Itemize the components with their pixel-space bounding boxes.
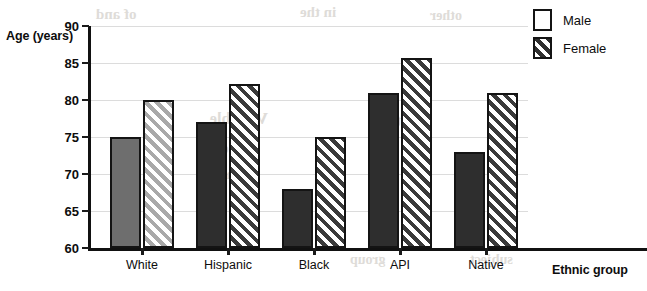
x-tick-label-white: White bbox=[126, 258, 158, 272]
bar-chart: of andin theotherVariabletheof acasegrou… bbox=[0, 0, 647, 291]
bar-male-api bbox=[368, 93, 399, 248]
y-tick-label: 80 bbox=[65, 93, 79, 108]
gridline bbox=[91, 63, 528, 64]
legend: MaleFemale bbox=[533, 6, 606, 62]
bar-male-hispanic bbox=[196, 122, 227, 248]
y-tick-mark bbox=[82, 136, 89, 138]
x-tick-label-hispanic: Hispanic bbox=[204, 258, 252, 272]
x-tick-label-black: Black bbox=[299, 258, 330, 272]
y-tick-label: 85 bbox=[65, 56, 79, 71]
y-tick-mark bbox=[82, 62, 89, 64]
y-tick-mark bbox=[82, 173, 89, 175]
legend-item-female: Female bbox=[533, 34, 606, 62]
y-tick-label: 60 bbox=[65, 241, 79, 256]
legend-label: Male bbox=[563, 13, 591, 28]
legend-item-male: Male bbox=[533, 6, 606, 34]
bar-male-black bbox=[282, 189, 313, 248]
bar-female-native bbox=[487, 93, 518, 248]
legend-label: Female bbox=[563, 41, 606, 56]
legend-swatch-female bbox=[533, 37, 552, 59]
bar-female-black bbox=[315, 137, 346, 248]
bleed-text: in the bbox=[300, 4, 336, 21]
x-tick-mark bbox=[399, 248, 402, 255]
y-tick-mark bbox=[82, 247, 89, 249]
plot-area: 60657075808590 WhiteHispanicBlackAPINati… bbox=[88, 26, 528, 248]
bleed-text: other bbox=[430, 8, 462, 24]
bar-female-white bbox=[143, 100, 174, 248]
x-tick-mark bbox=[313, 248, 316, 255]
x-axis-title: Ethnic group bbox=[552, 263, 628, 277]
y-tick-label: 65 bbox=[65, 204, 79, 219]
bar-female-hispanic bbox=[229, 84, 260, 248]
x-tick-mark bbox=[227, 248, 230, 255]
x-tick-label-native: Native bbox=[468, 258, 503, 272]
y-tick-mark bbox=[82, 25, 89, 27]
y-axis-title: Age (years) bbox=[6, 29, 73, 43]
bar-female-api bbox=[401, 58, 432, 248]
y-tick-label: 70 bbox=[65, 167, 79, 182]
x-tick-label-api: API bbox=[390, 258, 410, 272]
x-tick-mark bbox=[485, 248, 488, 255]
bar-male-white bbox=[110, 137, 141, 248]
gridline bbox=[91, 26, 528, 27]
x-axis-line bbox=[88, 248, 647, 251]
bleed-text: of and bbox=[96, 6, 136, 23]
y-tick-mark bbox=[82, 210, 89, 212]
y-tick-label: 75 bbox=[65, 130, 79, 145]
y-tick-mark bbox=[82, 99, 89, 101]
bleed-text: group bbox=[350, 252, 386, 268]
bar-male-native bbox=[454, 152, 485, 248]
legend-swatch-male bbox=[533, 9, 552, 31]
x-tick-mark bbox=[141, 248, 144, 255]
